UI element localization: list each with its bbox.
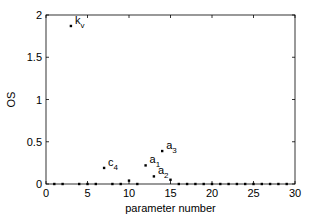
x-tick-label: 0 [43,187,49,199]
data-point [261,183,263,185]
data-point [144,164,146,166]
data-point [161,150,163,152]
x-tick-label: 25 [247,187,259,199]
data-point [103,167,105,169]
y-tick-label: 0.5 [27,136,42,148]
data-point [186,183,188,185]
data-point [277,183,279,185]
data-point [286,183,288,185]
data-point [61,183,63,185]
data-point [194,183,196,185]
data-point [169,179,171,181]
data-point [120,183,122,185]
y-tick-label: 2 [36,9,42,21]
data-point [70,25,72,27]
data-point [136,183,138,185]
data-point [178,183,180,185]
data-point [111,183,113,185]
data-point [244,183,246,185]
y-tick-label: 1 [36,94,42,106]
data-point [269,183,271,185]
y-axis-label: OS [5,92,17,108]
x-tick-label: 5 [84,187,90,199]
data-point [95,183,97,185]
x-tick-label: 20 [206,187,218,199]
data-point [53,183,55,185]
data-point [78,183,80,185]
x-axis-label: parameter number [125,202,216,214]
data-point [252,183,254,185]
data-point [219,183,221,185]
y-tick-label: 1.5 [27,51,42,63]
data-point [86,183,88,185]
y-tick-label: 0 [36,178,42,190]
data-point [227,183,229,185]
scatter-chart: 051015202530 00.511.52 kvc4a1a2a3 parame… [0,0,316,221]
data-point [211,183,213,185]
data-point [128,179,130,181]
data-point [236,183,238,185]
x-tick-label: 10 [123,187,135,199]
plot-area [46,15,295,184]
x-tick-label: 15 [164,187,176,199]
data-point [153,175,155,177]
data-point [203,183,205,185]
x-tick-label: 30 [289,187,301,199]
